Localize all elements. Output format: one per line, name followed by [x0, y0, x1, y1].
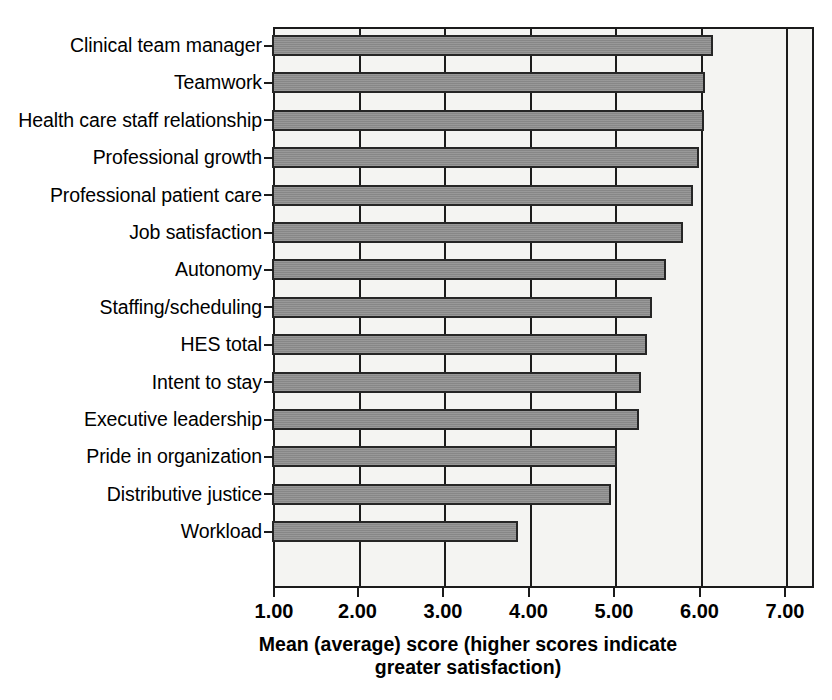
x-axis-tick-mark — [273, 588, 275, 597]
bar-row — [273, 177, 814, 214]
y-axis-tick-label: HES total — [181, 335, 273, 355]
y-axis-tick-mark — [264, 269, 273, 271]
y-axis-label-row: Staffing/scheduling — [0, 289, 273, 326]
x-axis-tick-label: 1.00 — [255, 600, 294, 623]
bar-hes-total — [272, 334, 647, 355]
y-axis-tick-label: Health care staff relationship — [18, 111, 273, 131]
bar-pride-in-organization — [272, 446, 617, 467]
y-axis-tick-mark — [264, 157, 273, 159]
y-axis-tick-label: Job satisfaction — [129, 223, 273, 243]
y-axis-tick-label: Staffing/scheduling — [99, 298, 273, 318]
x-axis-title-line-2: greater satisfaction) — [188, 656, 748, 679]
bar-clinical-team-manager — [272, 35, 713, 56]
bar-intent-to-stay — [272, 372, 641, 393]
y-axis-label-row: Workload — [0, 513, 273, 550]
bar-row — [273, 289, 814, 326]
y-axis-label-row: Professional growth — [0, 139, 273, 176]
x-axis-tick-label: 5.00 — [595, 600, 634, 623]
y-axis-tick-mark — [264, 194, 273, 196]
x-axis-tick-label: 2.00 — [338, 600, 377, 623]
y-axis-label-row: HES total — [0, 326, 273, 363]
y-axis-tick-mark — [264, 306, 273, 308]
y-axis-tick-label: Intent to stay — [152, 373, 273, 393]
bar-autonomy — [272, 259, 666, 280]
bar-distributive-justice — [272, 484, 611, 505]
y-axis-label-row: Distributive justice — [0, 476, 273, 513]
bar-professional-patient-care — [272, 185, 693, 206]
y-axis-tick-mark — [264, 493, 273, 495]
y-axis-tick-mark — [264, 381, 273, 383]
bar-professional-growth — [272, 147, 699, 168]
bar-chart: Clinical team manager Teamwork Health ca… — [0, 0, 832, 700]
y-axis-tick-mark — [264, 45, 273, 47]
bar-workload — [272, 521, 518, 542]
y-axis-tick-label: Professional patient care — [50, 186, 273, 206]
bar-row — [273, 513, 814, 550]
y-axis-tick-mark — [264, 82, 273, 84]
x-axis-tick-mark — [442, 588, 444, 597]
bar-row — [273, 214, 814, 251]
bar-row — [273, 326, 814, 363]
x-axis-tick-mark — [784, 588, 786, 597]
x-axis-tick-mark — [357, 588, 359, 597]
y-axis-tick-label: Workload — [181, 522, 273, 542]
bar-row — [273, 476, 814, 513]
y-axis-tick-mark — [264, 531, 273, 533]
x-axis-tick-mark — [613, 588, 615, 597]
x-axis-tick-label: 7.00 — [766, 600, 805, 623]
x-axis-tick-label: 6.00 — [680, 600, 719, 623]
bar-row — [273, 102, 814, 139]
y-axis-label-row: Clinical team manager — [0, 27, 273, 64]
y-axis-labels: Clinical team manager Teamwork Health ca… — [0, 27, 273, 588]
y-axis-label-row: Intent to stay — [0, 364, 273, 401]
y-axis-label-row: Teamwork — [0, 64, 273, 101]
x-axis-title: Mean (average) score (higher scores indi… — [188, 633, 748, 679]
y-axis-tick-label: Pride in organization — [86, 447, 273, 467]
bar-row — [273, 401, 814, 438]
y-axis-tick-mark — [264, 344, 273, 346]
bar-row — [273, 64, 814, 101]
x-axis-tick-label: 3.00 — [424, 600, 463, 623]
x-axis-tick-label: 4.00 — [509, 600, 548, 623]
y-axis-tick-mark — [264, 456, 273, 458]
bar-executive-leadership — [272, 409, 639, 430]
bar-row — [273, 27, 814, 64]
bar-job-satisfaction — [272, 222, 683, 243]
y-axis-label-row: Professional patient care — [0, 177, 273, 214]
bar-row — [273, 251, 814, 288]
bars-layer — [273, 27, 814, 588]
y-axis-tick-label: Teamwork — [174, 73, 273, 93]
y-axis-tick-label: Autonomy — [175, 260, 273, 280]
bar-teamwork — [272, 72, 705, 93]
y-axis-tick-label: Executive leadership — [84, 410, 273, 430]
bar-row — [273, 364, 814, 401]
y-axis-label-row: Pride in organization — [0, 438, 273, 475]
bar-staffing-scheduling — [272, 297, 652, 318]
y-axis-tick-label: Distributive justice — [107, 485, 273, 505]
y-axis-tick-mark — [264, 119, 273, 121]
y-axis-label-row: Job satisfaction — [0, 214, 273, 251]
y-axis-tick-label: Clinical team manager — [70, 36, 273, 56]
bar-health-care-staff-relationship — [272, 110, 704, 131]
x-axis-tick-mark — [528, 588, 530, 597]
x-axis-tick-mark — [699, 588, 701, 597]
y-axis-label-row: Health care staff relationship — [0, 102, 273, 139]
bar-row — [273, 438, 814, 475]
y-axis-tick-mark — [264, 419, 273, 421]
y-axis-tick-mark — [264, 232, 273, 234]
x-axis-labels: 1.00 2.00 3.00 4.00 5.00 6.00 7.00 — [0, 600, 832, 630]
x-axis-title-line-1: Mean (average) score (higher scores indi… — [188, 633, 748, 656]
y-axis-label-row: Executive leadership — [0, 401, 273, 438]
y-axis-label-row: Autonomy — [0, 251, 273, 288]
y-axis-tick-label: Professional growth — [93, 148, 273, 168]
bar-row — [273, 139, 814, 176]
x-axis-ticks — [273, 588, 814, 598]
